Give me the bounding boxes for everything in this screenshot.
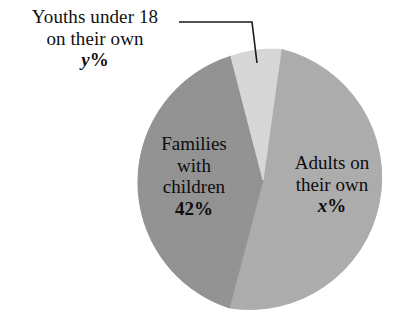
families-value: 42% xyxy=(140,198,248,220)
pie-chart-figure: Youths under 18 on their own y% Families… xyxy=(0,0,404,323)
slice-label-adults-on-their-own: Adults on their own x% xyxy=(276,152,388,217)
slice-label-families-with-children: Families with children 42% xyxy=(140,133,248,220)
callout-label-youths: Youths under 18 on their own y% xyxy=(2,6,188,71)
families-line-2: with xyxy=(140,155,248,177)
adults-value-symbol: % xyxy=(327,195,346,216)
callout-value-variable: y xyxy=(81,49,89,70)
callout-line-2: on their own xyxy=(2,28,188,50)
adults-line-1: Adults on xyxy=(276,152,388,174)
adults-line-2: their own xyxy=(276,174,388,196)
callout-value: y% xyxy=(2,49,188,71)
callout-value-symbol: % xyxy=(90,49,109,70)
callout-line-1: Youths under 18 xyxy=(2,6,188,28)
adults-value: x% xyxy=(276,195,388,217)
families-line-3: children xyxy=(140,176,248,198)
adults-value-variable: x xyxy=(318,195,328,216)
families-line-1: Families xyxy=(140,133,248,155)
